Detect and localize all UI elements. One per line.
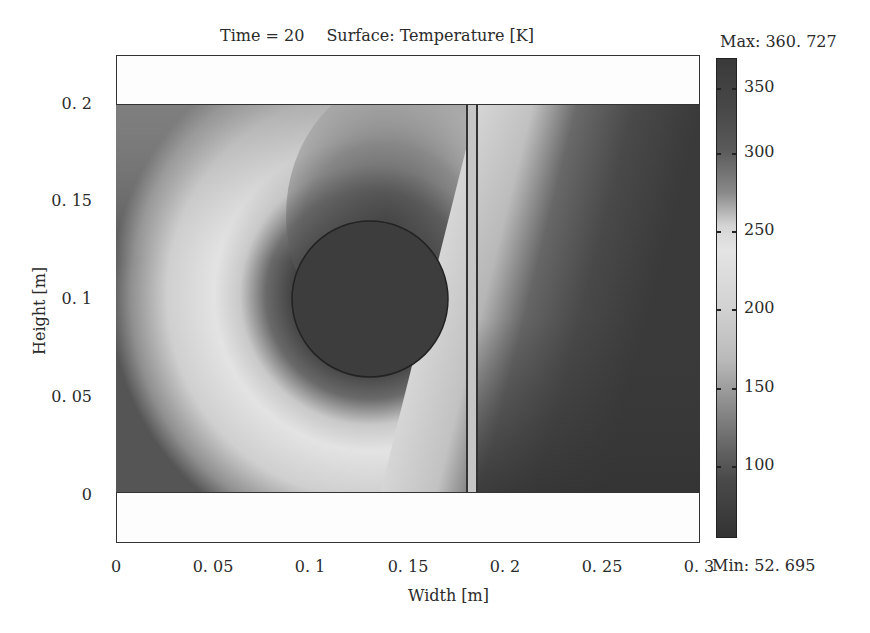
temperature-field (116, 104, 700, 493)
y-axis-label: Height [m] (30, 267, 49, 355)
colorbar-tick: 150 (744, 377, 775, 396)
colorbar-tick: 200 (744, 298, 775, 317)
colorbar-tick: 300 (744, 142, 775, 161)
y-tick: 0. 15 (32, 191, 92, 210)
y-tick: 0 (32, 485, 92, 504)
surface-label: Surface: Temperature [K] (326, 26, 534, 45)
x-tick: 0. 15 (373, 557, 443, 576)
colorbar-tick: 350 (744, 77, 775, 96)
y-tick: 0. 05 (32, 387, 92, 406)
x-tick: 0. 2 (470, 557, 540, 576)
colorbar-min-label: Min: 52. 695 (712, 556, 815, 575)
x-tick: 0 (81, 557, 151, 576)
x-tick: 0. 25 (567, 557, 637, 576)
x-axis-label: Width [m] (408, 586, 489, 605)
x-tick: 0. 1 (275, 557, 345, 576)
colorbar-max-label: Max: 360. 727 (720, 32, 837, 51)
time-label: Time = 20 (220, 26, 304, 45)
colorbar-tick: 100 (744, 455, 775, 474)
heated-cylinder (292, 221, 448, 377)
chart-title: Time = 20Surface: Temperature [K] (220, 26, 534, 45)
y-tick: 0. 2 (32, 94, 92, 113)
x-tick: 0. 05 (178, 557, 248, 576)
colorbar (716, 58, 737, 538)
colorbar-tick: 250 (744, 220, 775, 239)
